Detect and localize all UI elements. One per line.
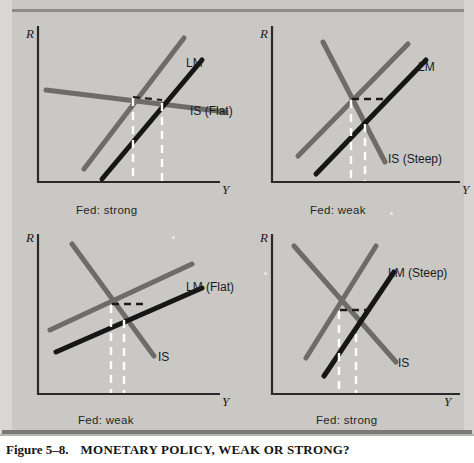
figure-caption: Figure 5–8. MONETARY POLICY, WEAK OR STR… [6,440,472,460]
x-axis-label: Y [444,394,451,410]
scan-speck [390,212,393,215]
panel-caption-fed-strong: Fed: strong [316,414,377,426]
axes [38,234,220,394]
panel-bottom-right-plot [248,222,473,430]
panel-caption-fed-strong: Fed: strong [76,204,137,216]
panel-caption-fed-weak: Fed: weak [78,414,134,426]
panel-top-right-plot [248,14,473,222]
is-flat-label: IS (Flat) [190,104,233,118]
panel-caption-fed-weak: Fed: weak [310,204,366,216]
is-steep-label: IS (Steep) [388,152,442,166]
plate-top-rule [12,9,464,12]
x-axis-label: Y [222,394,229,410]
lm-flat-label: LM (Flat) [186,280,234,294]
y-axis-label: R [260,230,268,246]
scan-speck [172,236,175,239]
panel-bottom-left-plot [14,222,239,430]
lm-flat-original-curve [50,264,192,330]
lm-steep-label: LM (Steep) [388,266,447,280]
panel-top-left: R Y LM IS (Flat) Fed: strong [14,14,239,222]
is-label: IS [398,356,409,370]
lm-steep-original-curve [306,246,376,358]
lm-flat-shifted-curve [56,288,202,352]
x-axis-label: Y [222,182,229,198]
y-axis-label: R [260,26,268,42]
x-axis-label: Y [462,182,469,198]
figure-plate: R Y LM IS (Flat) Fed: strong R Y LM IS (… [0,0,474,436]
y-axis-label: R [26,230,34,246]
plate-left-margin [0,0,12,436]
plate-bottom-shadow [0,434,474,436]
lm-label: LM [186,56,203,70]
panel-bottom-right: R Y LM (Steep) IS Fed: strong [248,222,473,430]
panel-top-right: R Y LM IS (Steep) Fed: weak [248,14,473,222]
scan-speck [264,272,267,275]
figure-number: Figure 5–8. [6,442,69,458]
panel-bottom-left: R Y LM (Flat) IS Fed: weak [14,222,239,430]
y-axis-label: R [26,26,34,42]
lm-label: LM [418,60,435,74]
is-label: IS [158,350,169,364]
panel-top-left-plot [14,14,239,222]
figure-title: MONETARY POLICY, WEAK OR STRONG? [81,442,350,458]
lm-steep-shifted-curve [324,272,394,376]
